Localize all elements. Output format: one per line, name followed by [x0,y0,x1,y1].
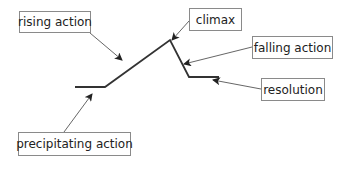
plot-structure-diagram: rising action climax falling action reso… [0,0,347,170]
precipitating-action-arrow [64,94,92,132]
plot-line [75,40,219,87]
climax-label: climax [189,8,242,31]
rising-action-arrow [90,33,122,60]
resolution-arrow [213,80,261,89]
precipitating-action-label: precipitating action [18,132,131,156]
arrows-group [64,21,261,132]
rising-action-label: rising action [19,11,91,33]
falling-action-label: falling action [252,36,333,59]
falling-action-arrow [184,47,252,64]
climax-arrow [172,21,189,40]
resolution-label: resolution [261,78,325,101]
